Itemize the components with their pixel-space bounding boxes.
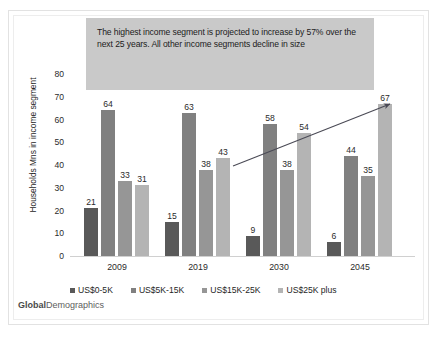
bar-group: 21643331 xyxy=(84,74,149,256)
y-tick-label: 30 xyxy=(38,183,64,193)
bar[interactable] xyxy=(118,181,132,256)
bar-group: 15633843 xyxy=(165,74,230,256)
x-axis-category-label: 2030 xyxy=(244,262,314,272)
bar-slot: 6 xyxy=(327,74,341,256)
x-axis-category-label: 2009 xyxy=(82,262,152,272)
bar[interactable] xyxy=(297,133,311,256)
chart-legend: US$0-5KUS$5K-15KUS$15K-25KUS$25K plus xyxy=(70,283,420,297)
x-axis-category-label: 2045 xyxy=(325,262,395,272)
y-tick-label: 60 xyxy=(38,115,64,125)
bar-value-label: 58 xyxy=(265,113,275,123)
legend-swatch xyxy=(278,288,283,293)
legend-item[interactable]: US$15K-25K xyxy=(202,285,260,295)
bar[interactable] xyxy=(199,170,213,256)
footer-brand: GlobalDemographics xyxy=(18,300,104,310)
bar-slot: 31 xyxy=(135,74,149,256)
bar[interactable] xyxy=(361,176,375,256)
bar-value-label: 35 xyxy=(363,165,373,175)
bar-value-label: 44 xyxy=(346,145,356,155)
bar[interactable] xyxy=(246,236,260,256)
bar-slot: 15 xyxy=(165,74,179,256)
bar-slot: 44 xyxy=(344,74,358,256)
x-axis-category-label: 2019 xyxy=(163,262,233,272)
bar-slot: 43 xyxy=(216,74,230,256)
bar-slot: 38 xyxy=(280,74,294,256)
bar[interactable] xyxy=(263,124,277,256)
bar-slot: 54 xyxy=(297,74,311,256)
y-tick-label: 10 xyxy=(38,228,64,238)
bar-value-label: 15 xyxy=(167,211,177,221)
bar-slot: 58 xyxy=(263,74,277,256)
bar-value-label: 38 xyxy=(201,159,211,169)
bar[interactable] xyxy=(182,113,196,256)
bar-value-label: 64 xyxy=(103,99,113,109)
chart-card: The highest income segment is projected … xyxy=(0,0,444,338)
bar[interactable] xyxy=(101,110,115,256)
bar-value-label: 9 xyxy=(251,225,256,235)
legend-label: US$0-5K xyxy=(78,285,113,295)
x-axis-line xyxy=(70,256,415,257)
y-tick-label: 70 xyxy=(38,92,64,102)
bar-value-label: 6 xyxy=(332,231,337,241)
bar[interactable] xyxy=(216,158,230,256)
legend-label: US$5K-15K xyxy=(139,285,184,295)
bar[interactable] xyxy=(344,156,358,256)
y-axis-ticks: 80706050403020100 xyxy=(36,0,64,338)
bar-value-label: 43 xyxy=(218,147,228,157)
callout-text: The highest income segment is projected … xyxy=(97,26,365,51)
bar-slot: 67 xyxy=(378,74,392,256)
bar-group: 9583854 xyxy=(246,74,311,256)
bar-value-label: 21 xyxy=(86,197,96,207)
bar[interactable] xyxy=(165,222,179,256)
bar-value-label: 33 xyxy=(120,170,130,180)
bar[interactable] xyxy=(135,185,149,256)
legend-swatch xyxy=(70,288,75,293)
bar[interactable] xyxy=(84,208,98,256)
bar[interactable] xyxy=(378,104,392,256)
y-tick-label: 80 xyxy=(38,69,64,79)
bar-slot: 33 xyxy=(118,74,132,256)
bar[interactable] xyxy=(327,242,341,256)
y-tick-label: 0 xyxy=(38,251,64,261)
bar-slot: 9 xyxy=(246,74,260,256)
legend-label: US$15K-25K xyxy=(210,285,260,295)
y-tick-label: 40 xyxy=(38,160,64,170)
legend-swatch xyxy=(202,288,207,293)
legend-label: US$25K plus xyxy=(286,285,336,295)
legend-item[interactable]: US$5K-15K xyxy=(131,285,184,295)
bar-slot: 64 xyxy=(101,74,115,256)
plot-area: 216433311563384395838546443567 xyxy=(70,74,415,256)
bar-slot: 21 xyxy=(84,74,98,256)
bar-value-label: 63 xyxy=(184,102,194,112)
y-tick-label: 20 xyxy=(38,206,64,216)
bar-value-label: 31 xyxy=(137,174,147,184)
bar-slot: 63 xyxy=(182,74,196,256)
bar-value-label: 38 xyxy=(282,159,292,169)
brand-rest-text: Demographics xyxy=(46,300,104,310)
bar-value-label: 67 xyxy=(380,93,390,103)
legend-swatch xyxy=(131,288,136,293)
bar-group: 6443567 xyxy=(327,74,392,256)
bar[interactable] xyxy=(280,170,294,256)
bar-slot: 35 xyxy=(361,74,375,256)
brand-bold-text: Global xyxy=(18,300,46,310)
y-tick-label: 50 xyxy=(38,137,64,147)
bar-slot: 38 xyxy=(199,74,213,256)
bar-value-label: 54 xyxy=(299,122,309,132)
legend-item[interactable]: US$25K plus xyxy=(278,285,336,295)
legend-item[interactable]: US$0-5K xyxy=(70,285,113,295)
